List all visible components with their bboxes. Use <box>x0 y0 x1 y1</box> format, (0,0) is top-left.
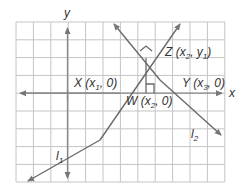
point-z-label: Z (x2, y1) <box>164 45 211 61</box>
point-w-label: W (x2, 0) <box>126 94 172 110</box>
line-l1-label: l1 <box>56 149 63 165</box>
x-axis-label: x <box>228 86 236 100</box>
point-y-label: Y (x3, 0) <box>182 76 225 92</box>
point-x-label: X (x1, 0) <box>73 76 117 92</box>
coordinate-diagram: y x X (x1, 0) Y (x3, 0) W (x2, 0) Z (x2,… <box>0 0 245 190</box>
y-axis-label: y <box>63 6 71 20</box>
line-l2-label: l2 <box>191 127 199 143</box>
line-l2 <box>114 24 221 135</box>
